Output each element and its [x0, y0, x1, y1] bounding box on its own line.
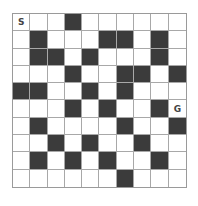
wall-cell: [65, 66, 82, 83]
open-cell[interactable]: [82, 100, 99, 117]
wall-cell: [117, 118, 134, 135]
open-cell[interactable]: [65, 49, 82, 66]
open-cell[interactable]: [117, 135, 134, 152]
open-cell[interactable]: [169, 14, 186, 31]
open-cell[interactable]: [134, 152, 151, 169]
open-cell[interactable]: [30, 14, 47, 31]
open-cell[interactable]: [48, 31, 65, 48]
wall-cell: [30, 49, 47, 66]
open-cell[interactable]: [13, 31, 30, 48]
wall-cell: [99, 152, 116, 169]
open-cell[interactable]: [65, 31, 82, 48]
open-cell[interactable]: [134, 118, 151, 135]
open-cell[interactable]: [99, 135, 116, 152]
wall-cell: [117, 83, 134, 100]
wall-cell: [82, 135, 99, 152]
open-cell[interactable]: [117, 49, 134, 66]
open-cell[interactable]: [151, 14, 168, 31]
wall-cell: [99, 31, 116, 48]
wall-cell: [30, 31, 47, 48]
open-cell[interactable]: [48, 170, 65, 187]
wall-cell: [82, 83, 99, 100]
wall-cell: [48, 49, 65, 66]
open-cell[interactable]: [48, 100, 65, 117]
open-cell[interactable]: [117, 100, 134, 117]
open-cell[interactable]: [30, 170, 47, 187]
open-cell[interactable]: [99, 118, 116, 135]
open-cell[interactable]: [99, 49, 116, 66]
wall-cell: [151, 100, 168, 117]
open-cell[interactable]: [13, 100, 30, 117]
open-cell[interactable]: [169, 170, 186, 187]
open-cell[interactable]: [117, 152, 134, 169]
start-label: S: [18, 17, 24, 27]
open-cell[interactable]: [151, 118, 168, 135]
wall-cell: [134, 66, 151, 83]
open-cell[interactable]: [134, 31, 151, 48]
open-cell[interactable]: [65, 135, 82, 152]
open-cell[interactable]: [13, 170, 30, 187]
open-cell[interactable]: [82, 31, 99, 48]
wall-cell: [134, 135, 151, 152]
open-cell[interactable]: [151, 170, 168, 187]
open-cell[interactable]: [151, 83, 168, 100]
open-cell[interactable]: [169, 135, 186, 152]
wall-cell: [65, 100, 82, 117]
wall-cell: [30, 83, 47, 100]
open-cell[interactable]: [13, 152, 30, 169]
open-cell[interactable]: [151, 66, 168, 83]
wall-cell: [13, 83, 30, 100]
open-cell[interactable]: [169, 49, 186, 66]
wall-cell: [117, 31, 134, 48]
open-cell[interactable]: [99, 83, 116, 100]
open-cell[interactable]: [65, 118, 82, 135]
open-cell[interactable]: [99, 66, 116, 83]
open-cell[interactable]: [99, 14, 116, 31]
open-cell[interactable]: [82, 170, 99, 187]
open-cell[interactable]: [82, 14, 99, 31]
open-cell[interactable]: [13, 49, 30, 66]
open-cell[interactable]: [134, 49, 151, 66]
wall-cell: [30, 152, 47, 169]
open-cell[interactable]: [13, 118, 30, 135]
wall-cell: [65, 14, 82, 31]
open-cell[interactable]: [48, 14, 65, 31]
open-cell[interactable]: [169, 83, 186, 100]
open-cell[interactable]: [134, 83, 151, 100]
open-cell[interactable]: [30, 66, 47, 83]
wall-cell: [30, 118, 47, 135]
open-cell[interactable]: [48, 83, 65, 100]
open-cell[interactable]: [48, 66, 65, 83]
open-cell[interactable]: [151, 135, 168, 152]
open-cell[interactable]: [134, 170, 151, 187]
open-cell[interactable]: [169, 31, 186, 48]
goal-label: G: [174, 104, 181, 114]
open-cell[interactable]: [13, 135, 30, 152]
open-cell[interactable]: [134, 14, 151, 31]
open-cell[interactable]: [82, 152, 99, 169]
open-cell[interactable]: [134, 100, 151, 117]
open-cell[interactable]: [13, 66, 30, 83]
open-cell[interactable]: [99, 170, 116, 187]
wall-cell: [117, 170, 134, 187]
wall-cell: [117, 66, 134, 83]
open-cell[interactable]: [30, 135, 47, 152]
wall-cell: [65, 152, 82, 169]
open-cell[interactable]: [30, 100, 47, 117]
open-cell[interactable]: [117, 14, 134, 31]
wall-cell: [151, 49, 168, 66]
open-cell[interactable]: [48, 152, 65, 169]
wall-cell: [151, 152, 168, 169]
wall-cell: [151, 31, 168, 48]
wall-cell: [169, 118, 186, 135]
goal-cell[interactable]: G: [169, 100, 186, 117]
open-cell[interactable]: [82, 118, 99, 135]
open-cell[interactable]: [169, 152, 186, 169]
wall-cell: [169, 66, 186, 83]
open-cell[interactable]: [65, 170, 82, 187]
open-cell[interactable]: [65, 83, 82, 100]
open-cell[interactable]: [48, 118, 65, 135]
wall-cell: [48, 135, 65, 152]
open-cell[interactable]: [82, 66, 99, 83]
start-cell[interactable]: S: [13, 14, 30, 31]
